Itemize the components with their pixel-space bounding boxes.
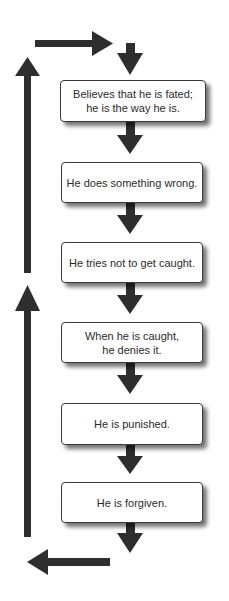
arrow-down-icon <box>117 445 143 474</box>
arrow-down-icon <box>117 203 143 234</box>
arrow-left-icon <box>27 549 110 575</box>
arrow-right-icon <box>35 31 113 56</box>
arrow-down-icon <box>117 523 143 553</box>
step-box-avoids-caught: He tries not to get caught. <box>61 242 203 283</box>
arrow-up-icon <box>15 285 40 537</box>
step-box-fated: Believes that he is fated; he is the way… <box>60 80 206 122</box>
arrow-down-icon <box>117 363 143 394</box>
step-box-denies: When he is caught, he denies it. <box>61 322 203 363</box>
arrow-down-icon <box>117 43 143 75</box>
arrow-down-icon <box>117 122 143 154</box>
arrow-down-icon <box>117 283 143 314</box>
arrow-up-icon <box>15 57 40 273</box>
step-box-punished: He is punished. <box>61 403 203 445</box>
step-box-does-wrong: He does something wrong. <box>61 162 203 203</box>
step-box-forgiven: He is forgiven. <box>61 482 203 523</box>
flowchart-canvas: Believes that he is fated; he is the way… <box>0 0 229 601</box>
